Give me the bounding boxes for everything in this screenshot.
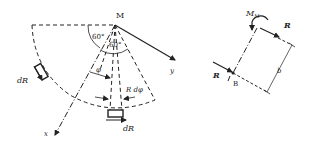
bottom-dR-label: dR xyxy=(123,124,134,133)
left-dR-label: dR xyxy=(17,76,28,85)
top-R-label: R xyxy=(283,20,291,30)
rdphi-arrow-left xyxy=(95,97,108,99)
bottom-element xyxy=(108,110,123,117)
point-B-tick xyxy=(228,76,230,81)
radial-line-2 xyxy=(110,25,115,110)
left-side-line xyxy=(233,28,257,73)
radial-line-4 xyxy=(115,25,122,110)
rdphi-arrow-right xyxy=(124,97,135,99)
point-B xyxy=(232,72,235,75)
angle-outer-label: 60° xyxy=(92,33,104,41)
left-force-arrow xyxy=(34,66,42,80)
rdphi-label: R dφ xyxy=(125,86,143,94)
x-axis xyxy=(55,25,115,135)
diagram-canvas: M 60° 60° φ R dφ dR dR x y MM R R B b xyxy=(0,0,315,145)
angle-inner-label: 60° xyxy=(109,41,121,49)
left-diagram: M 60° 60° φ R dφ dR dR x y xyxy=(17,11,175,138)
x-axis-label: x xyxy=(44,130,48,138)
y-axis-label: y xyxy=(169,67,175,75)
dimension-b-label: b xyxy=(277,67,282,75)
y-axis xyxy=(115,25,175,60)
point-M-label: M xyxy=(116,11,124,20)
top-force-arrow xyxy=(260,28,279,37)
left-R-label: R xyxy=(212,70,220,80)
phi-label: φ xyxy=(96,66,101,74)
right-diagram: MM R R B b xyxy=(212,9,295,94)
point-B-label: B xyxy=(233,80,238,88)
moment-label: MM xyxy=(245,9,260,19)
left-element xyxy=(35,64,49,80)
